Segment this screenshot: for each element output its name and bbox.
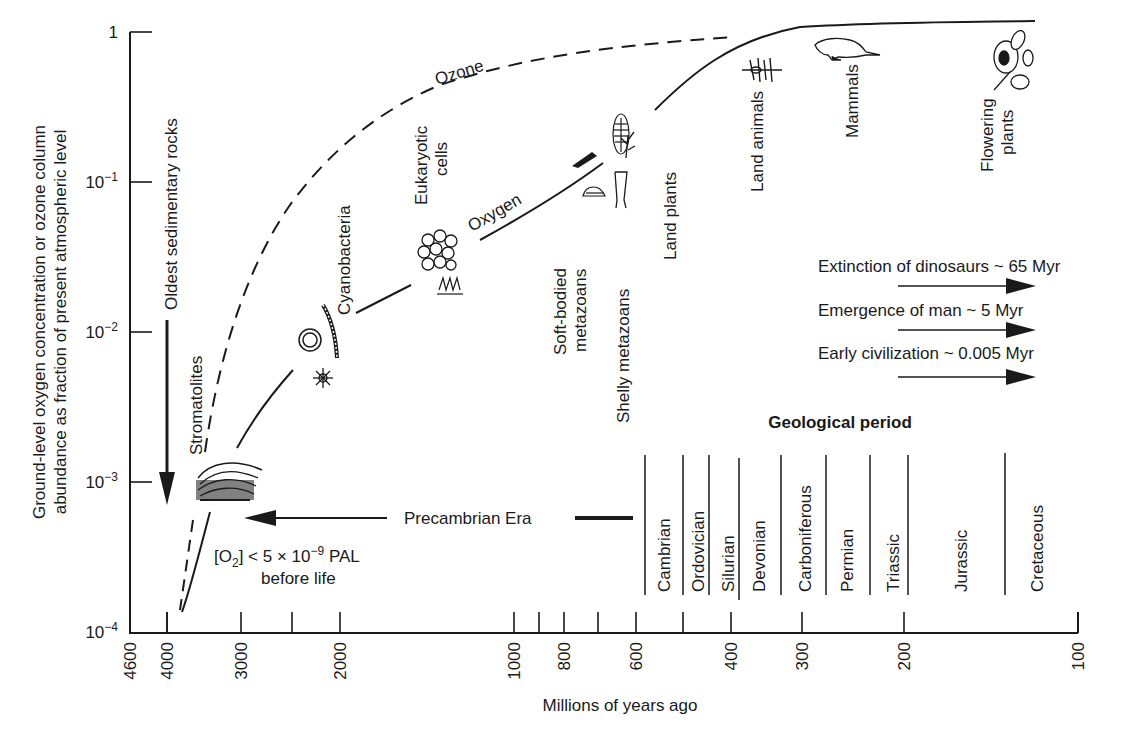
period-labels: Cambrian Ordovician Silurian Devonian Ca… <box>655 485 1047 592</box>
soft-bodied-label-2: metazoans <box>571 269 590 352</box>
oldest-rocks-label: Oldest sedimentary rocks <box>162 118 181 310</box>
period-ordovician: Ordovician <box>689 511 708 592</box>
x-tick-400: 400 <box>722 642 741 670</box>
x-tick-4000: 4000 <box>158 642 177 680</box>
y-tick-1e-3: 10−3 <box>85 470 118 492</box>
y-tick-labels: 1 10−1 10−2 10−3 10−4 <box>85 23 118 642</box>
period-cambrian: Cambrian <box>655 518 674 592</box>
arrow-right-icon <box>1006 278 1036 294</box>
x-axis-title: Millions of years ago <box>543 696 698 715</box>
o2-before-life-note: [O2] < 5 × 10−9 PAL before life <box>214 544 360 588</box>
x-tick-200: 200 <box>895 642 914 670</box>
mammal-icon <box>815 38 880 60</box>
stromatolites-label: Stromatolites <box>187 356 206 455</box>
x-tick-labels: 4600 4000 3000 2000 1000 800 600 400 300… <box>121 642 1088 680</box>
x-tick-3000: 3000 <box>232 642 251 680</box>
period-carboniferous: Carboniferous <box>796 485 815 592</box>
oldest-rocks-arrow <box>159 320 175 505</box>
period-silurian: Silurian <box>719 535 738 592</box>
land-animals-label: Land animals <box>748 91 767 192</box>
eukaryotic-label-1: Eukaryotic <box>412 125 431 205</box>
x-tick-100: 100 <box>1069 642 1088 670</box>
eukaryotic-cluster-icon <box>418 230 457 270</box>
period-jurassic: Jurassic <box>952 529 971 592</box>
flowering-label-2: plants <box>998 110 1017 155</box>
svg-text:[O2] < 5 × 10−9 PAL: [O2] < 5 × 10−9 PAL <box>214 544 360 570</box>
y-ticks <box>130 32 152 482</box>
eukaryotic-label-2: cells <box>432 142 451 176</box>
emergence-label: Emergence of man ~ 5 Myr <box>818 301 1024 320</box>
x-tick-300: 300 <box>793 642 812 670</box>
period-triassic: Triassic <box>884 534 903 592</box>
soft-bodied-worm-icon <box>572 152 597 168</box>
period-permian: Permian <box>838 529 857 592</box>
y-tick-1e-1: 10−1 <box>85 170 118 192</box>
arrow-right-icon <box>1006 322 1036 338</box>
ozone-label: Ozone <box>433 56 486 89</box>
x-tick-2000: 2000 <box>331 642 350 680</box>
stromatolite-icon <box>196 463 262 500</box>
cyanobacteria-label: Cyanobacteria <box>335 205 354 315</box>
algae-mat-icon <box>437 278 463 294</box>
flowering-plant-icon <box>994 28 1033 90</box>
arrow-left-icon <box>244 510 276 526</box>
axes <box>129 32 1078 633</box>
period-devonian: Devonian <box>750 520 769 592</box>
x-tick-4600: 4600 <box>121 642 140 680</box>
land-animal-insect-icon <box>742 58 782 82</box>
svg-text:before life: before life <box>261 569 336 588</box>
geological-period-title: Geological period <box>768 413 912 432</box>
flowering-label-1: Flowering <box>978 98 997 172</box>
civilization-label: Early civilization ~ 0.005 Myr <box>818 344 1034 363</box>
precambrian-era-arrow: Precambrian Era <box>244 509 633 528</box>
period-cretaceous: Cretaceous <box>1028 505 1047 592</box>
x-tick-600: 600 <box>627 642 646 670</box>
svg-text:abundance as fraction of prese: abundance as fraction of present atmosph… <box>51 130 70 515</box>
mammals-label: Mammals <box>843 64 862 138</box>
offscale-events: Extinction of dinosaurs ~ 65 Myr Emergen… <box>818 257 1061 385</box>
x-tick-800: 800 <box>555 642 574 670</box>
oxygen-ozone-history-chart: 1 10−1 10−2 10−3 10−4 4600 4000 3000 200… <box>0 0 1136 742</box>
x-ticks <box>167 612 904 633</box>
y-tick-1e-4: 10−4 <box>85 620 118 642</box>
sponge-icon <box>615 172 627 208</box>
x-tick-1000: 1000 <box>505 642 524 680</box>
y-axis-title: Ground-level oxygen concentration or ozo… <box>30 125 70 519</box>
ozone-curve <box>205 37 735 452</box>
microbe-star-icon <box>313 368 333 388</box>
soft-bodied-label-1: Soft-bodied <box>551 268 570 355</box>
oxygen-label: Oxygen <box>465 190 525 236</box>
bacteria-cell-icon <box>299 329 321 351</box>
extinction-label: Extinction of dinosaurs ~ 65 Myr <box>818 257 1061 276</box>
shelly-label: Shelly metazoans <box>614 289 633 423</box>
land-plants-label: Land plants <box>661 172 680 260</box>
y-tick-1e-2: 10−2 <box>85 320 118 342</box>
shell-icon <box>583 187 605 196</box>
y-tick-1: 1 <box>109 23 118 42</box>
arrow-right-icon <box>1006 369 1036 385</box>
svg-text:Ground-level oxygen concentrat: Ground-level oxygen concentration or ozo… <box>30 125 49 519</box>
precambrian-label: Precambrian Era <box>404 509 532 528</box>
oxygen-curve-a <box>237 370 293 448</box>
arrow-down-icon <box>159 472 175 505</box>
oxygen-curve-b <box>356 285 411 313</box>
